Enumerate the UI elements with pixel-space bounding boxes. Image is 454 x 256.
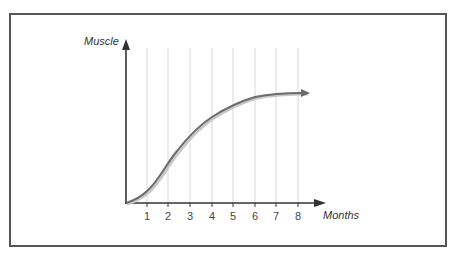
tick-label: 6	[249, 210, 261, 222]
x-axis-label: Months	[323, 209, 359, 221]
curve-shadow	[127, 94, 308, 204]
curve-arrow-icon	[301, 89, 310, 97]
tick-label: 1	[141, 210, 153, 222]
tick-label: 7	[270, 210, 282, 222]
tick-label: 3	[184, 210, 196, 222]
tick-label: 8	[292, 210, 304, 222]
vertical-gridlines	[147, 48, 298, 203]
tick-label: 4	[206, 210, 218, 222]
y-axis-arrow-icon	[122, 39, 130, 50]
x-axis-arrow-icon	[314, 199, 326, 207]
y-axis-label: Muscle	[84, 35, 119, 47]
axes	[122, 39, 326, 207]
tick-label: 5	[227, 210, 239, 222]
tick-label: 2	[162, 210, 174, 222]
